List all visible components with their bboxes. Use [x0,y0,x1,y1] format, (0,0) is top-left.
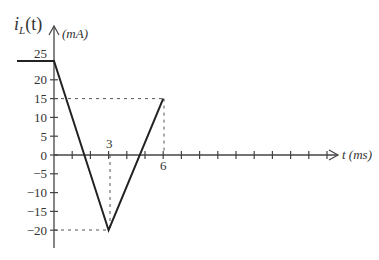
x-tick-label-3: 3 [106,136,113,151]
svg-text:5: 5 [41,129,48,144]
x-axis-label: t (ms) [342,147,372,162]
svg-text:20: 20 [34,72,47,87]
y-axis-label: iL(t) [14,14,42,36]
current-waveform-chart: 2520151050−5−10−15−20 iL(t) (mA) t (ms) … [0,0,379,260]
svg-text:−10: −10 [27,185,47,200]
x-tick-label-6: 6 [160,158,167,173]
svg-text:−15: −15 [27,204,47,219]
y-ticks: 2520151050−5−10−15−20 [27,46,58,238]
svg-text:0: 0 [41,148,48,163]
y-unit-label: (mA) [62,26,88,41]
svg-text:15: 15 [34,91,47,106]
svg-text:−5: −5 [33,166,47,181]
svg-text:25: 25 [34,46,47,61]
svg-text:−20: −20 [27,223,47,238]
svg-text:10: 10 [34,110,47,125]
